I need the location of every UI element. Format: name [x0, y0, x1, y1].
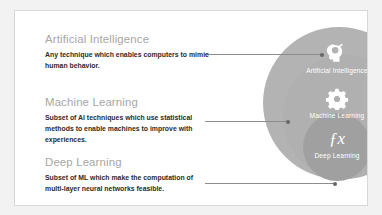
description-machine-learning: Subset of AI techniques which use statis…	[45, 112, 213, 146]
connector-line-artificial-intelligence	[205, 54, 322, 55]
connector-line-deep-learning	[205, 183, 335, 184]
slide-background: ƒx Artificial Intelligence Machine Learn…	[0, 0, 382, 215]
heading-machine-learning: Machine Learning	[45, 96, 213, 109]
heading-deep-learning: Deep Learning	[45, 156, 213, 169]
text-block-machine-learning: Machine Learning Subset of AI techniques…	[45, 96, 213, 145]
gear-icon	[317, 88, 357, 110]
ring-label-artificial-intelligence: Artificial Intelligence	[273, 67, 368, 75]
description-deep-learning: Subset of ML which make the computation …	[45, 172, 213, 194]
connector-dot-deep-learning	[333, 182, 337, 186]
connector-line-machine-learning	[205, 121, 288, 122]
connector-dot-machine-learning	[286, 120, 290, 124]
function-fx-glyph: ƒx	[317, 129, 357, 149]
description-artificial-intelligence: Any technique which enables computers to…	[45, 49, 213, 71]
connector-dot-artificial-intelligence	[320, 53, 324, 57]
function-fx-icon: ƒx	[317, 129, 357, 151]
ring-label-deep-learning: Deep Learning	[307, 152, 367, 160]
heading-artificial-intelligence: Artificial Intelligence	[45, 33, 213, 46]
diagram-canvas: ƒx Artificial Intelligence Machine Learn…	[14, 10, 368, 206]
text-block-deep-learning: Deep Learning Subset of ML which make th…	[45, 156, 213, 194]
text-block-artificial-intelligence: Artificial Intelligence Any technique wh…	[45, 33, 213, 71]
ring-label-machine-learning: Machine Learning	[281, 112, 368, 120]
